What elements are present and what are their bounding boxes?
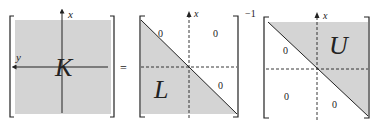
zero-label: 0 bbox=[332, 99, 337, 110]
matrix-l: x 0 0 0 L bbox=[140, 8, 238, 118]
matrix-k: x y K bbox=[10, 8, 114, 117]
right-bracket bbox=[233, 16, 238, 117]
inverse-exponent: −1 bbox=[245, 8, 256, 19]
left-bracket bbox=[264, 17, 269, 118]
zero-label: 0 bbox=[218, 80, 223, 91]
y-axis-label: y bbox=[15, 51, 21, 63]
zero-label: 0 bbox=[283, 45, 288, 56]
left-bracket bbox=[10, 16, 14, 117]
matrix-l-label: L bbox=[153, 75, 168, 104]
x-axis-label: x bbox=[67, 8, 73, 20]
matrix-factorization-diagram: x y K = x 0 0 0 L −1 x 0 0 0 U bbox=[0, 0, 378, 128]
matrix-u-label: U bbox=[329, 31, 350, 60]
x-axis-arrowhead bbox=[187, 11, 192, 17]
zero-label: 0 bbox=[284, 91, 289, 102]
x-axis-arrowhead bbox=[315, 12, 320, 18]
zero-label: 0 bbox=[158, 28, 163, 39]
x-axis-label: x bbox=[193, 8, 199, 19]
x-axis-label: x bbox=[322, 10, 328, 21]
zero-label: 0 bbox=[213, 28, 218, 39]
matrix-u: x 0 0 0 U bbox=[264, 10, 369, 120]
matrix-k-label: K bbox=[54, 53, 74, 82]
equals-sign: = bbox=[120, 61, 127, 75]
